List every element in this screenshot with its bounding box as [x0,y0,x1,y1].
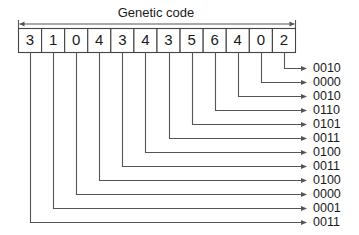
binary-code-label: 0001 [313,201,341,215]
code-box-digit: 4 [95,31,103,48]
leader-arrow-head [301,108,307,113]
code-box-digit: 4 [141,31,149,48]
diagram-canvas: 310434356402 001100010000010000110100001… [0,0,359,235]
leader-line [262,53,302,83]
binary-code-label: 0100 [313,145,341,159]
leader-line [31,53,302,223]
leader-line [170,53,302,139]
code-box-digit: 3 [118,31,126,48]
leader-arrow-head [301,178,307,183]
leader-line [239,53,302,97]
leader-arrow-head [301,122,307,127]
leader-line [216,53,302,111]
binary-code-label: 0000 [313,187,341,201]
binary-code-label: 0011 [313,215,340,229]
genetic-code-diagram: 310434356402 001100010000010000110100001… [0,0,359,235]
binary-code-label: 0011 [313,159,340,173]
leader-arrow-head [301,192,307,197]
binary-code-label: 0010 [313,61,341,75]
leader-arrow-head [301,206,307,211]
code-box-group: 310434356402 [19,29,296,53]
code-box-digit: 6 [211,31,219,48]
leader-line [123,53,302,167]
binary-code-label: 0000 [313,75,341,89]
leader-line [100,53,302,181]
code-box-digit: 5 [187,31,195,48]
leader-arrow-head [301,136,307,141]
leader-arrow-head [301,94,307,99]
code-box-digit: 0 [72,31,80,48]
leader-arrow-head [301,80,307,85]
leader-line [146,53,302,153]
leader-line [285,53,302,69]
binary-code-label: 0011 [313,131,340,145]
diagram-title: Genetic code [118,5,195,20]
leader-line [77,53,302,195]
binary-code-label: 0100 [313,173,341,187]
binary-code-label: 0110 [313,103,340,117]
code-box-digit: 2 [280,31,288,48]
binary-code-label: 0101 [313,117,341,131]
code-box-digit: 1 [49,31,57,48]
binary-code-label: 0010 [313,89,341,103]
code-box-digit: 4 [234,31,242,48]
leader-line-group [31,53,308,226]
span-arrow-head-left [20,21,25,26]
span-arrow-group [19,20,296,28]
code-box-digit: 3 [26,31,34,48]
leader-line [54,53,302,209]
leader-arrow-head [301,150,307,155]
code-box-digit: 0 [257,31,265,48]
leader-arrow-head [301,220,307,225]
leader-arrow-head [301,66,307,71]
code-box-digit: 3 [164,31,172,48]
leader-arrow-head [301,164,307,169]
binary-label-group: 0011000100000100001101000011010101100010… [313,61,341,229]
span-arrow-head-right [290,21,295,26]
